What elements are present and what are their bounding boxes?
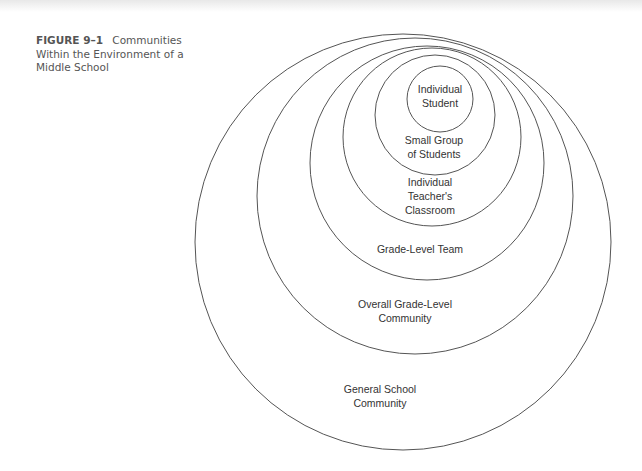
label-classroom: Individual (408, 176, 452, 188)
community-team: Grade-Level Team (310, 46, 544, 280)
label-team: Grade-Level Team (377, 243, 463, 255)
label-classroom: Classroom (405, 204, 455, 216)
label-overall: Community (378, 312, 432, 324)
label-small-group: Small Group (405, 134, 464, 146)
label-overall: Overall Grade-Level (358, 298, 452, 310)
label-general: Community (353, 397, 407, 409)
community-general: General SchoolCommunity (195, 34, 611, 450)
label-student: Individual (418, 83, 462, 95)
label-classroom: Teacher's (408, 190, 453, 202)
label-small-group: of Students (407, 148, 460, 160)
community-student: IndividualStudent (407, 66, 473, 132)
community-small-group: Small Groupof Students (375, 55, 495, 175)
label-student: Student (422, 97, 458, 109)
nested-circles-diagram: General SchoolCommunityOverall Grade-Lev… (0, 0, 642, 471)
label-general: General School (344, 383, 416, 395)
